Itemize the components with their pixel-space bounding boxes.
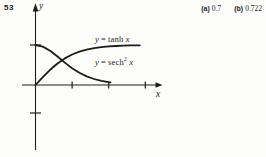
answer-b-value: 0.722 xyxy=(245,4,262,13)
answer-b-label: (b) xyxy=(234,5,243,12)
answer-b: (b)0.722 xyxy=(234,4,262,13)
sech-label-eq: = xyxy=(99,57,108,67)
sech-label-func: sech xyxy=(108,57,124,67)
answer-a-label: (a) xyxy=(201,5,210,12)
sech-curve-label: y=sech2 x xyxy=(95,57,133,67)
function-plot xyxy=(0,0,266,157)
tanh-label-eq: = xyxy=(99,34,108,44)
x-axis-arrow-icon xyxy=(156,82,163,88)
sech-label-arg: x xyxy=(129,57,133,67)
answer-a-value: 0.7 xyxy=(212,4,221,13)
y-axis-label: y xyxy=(39,1,43,11)
tanh-label-func: tanh xyxy=(108,34,123,44)
tanh-curve-label: y=tanh x xyxy=(95,34,130,44)
tanh-label-arg: x xyxy=(126,34,130,44)
sech-label-sup: 2 xyxy=(124,56,127,62)
answer-a: (a)0.7 xyxy=(201,4,221,13)
x-axis-label: x xyxy=(156,89,160,99)
